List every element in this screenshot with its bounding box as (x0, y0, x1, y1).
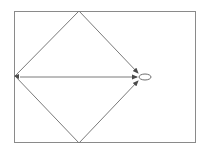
diagram-canvas (0, 0, 206, 152)
edge-top-left (15, 11, 79, 76)
edge-bottom-target-arrow (79, 81, 138, 143)
edge-left-bottom (15, 76, 79, 143)
edge-top-target-arrow (79, 11, 138, 73)
target-ellipse (139, 74, 151, 80)
